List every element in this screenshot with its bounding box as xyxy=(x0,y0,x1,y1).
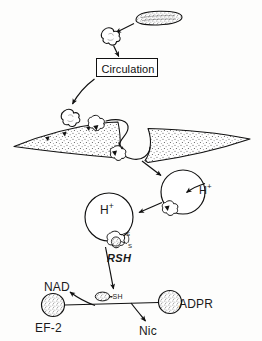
sulfur-label-upper: S xyxy=(126,231,130,237)
nic-label: Nic xyxy=(139,325,157,337)
nad-label: NAD xyxy=(44,281,70,293)
proton-label-endosome-2: H+ xyxy=(100,202,114,216)
proton-label-endosome-1: H+ xyxy=(199,183,212,196)
arrow-toxin-to-circulation xyxy=(114,46,119,57)
arrow-bacterium-to-toxin xyxy=(116,24,134,33)
circulation-label: Circulation xyxy=(97,59,159,78)
bacterium xyxy=(136,11,182,25)
pathway-diagram xyxy=(0,0,262,341)
ef2-circle xyxy=(42,294,65,317)
arrow-vesicle-to-endosome xyxy=(142,161,161,176)
arrow-nad-to-ef2 xyxy=(70,292,95,306)
toxin-receptor-complex xyxy=(88,115,104,130)
rsh-label: RSH xyxy=(107,253,131,264)
toxin-blob-secreted xyxy=(101,28,120,45)
internalized-toxin xyxy=(110,146,126,161)
thiol-label: -SH xyxy=(110,293,123,300)
adpr-label: ADPR xyxy=(179,298,213,310)
ef2-label: EF-2 xyxy=(35,322,62,334)
toxin-blob-free xyxy=(61,109,80,126)
cell-membrane xyxy=(14,122,250,163)
arrow-to-nic xyxy=(131,303,146,321)
arrow-circulation-to-membrane xyxy=(73,79,95,104)
arrow-endosome-to-endosome xyxy=(139,203,162,213)
circulation-box[interactable]: Circulation xyxy=(96,58,158,77)
sulfur-label-lower: S xyxy=(128,243,132,249)
